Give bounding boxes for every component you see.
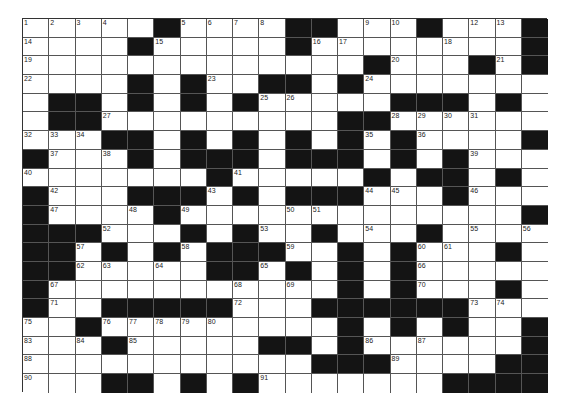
grid-cell[interactable]: 22 <box>23 75 49 94</box>
grid-cell[interactable] <box>286 299 312 318</box>
grid-cell[interactable]: 44 <box>364 187 390 206</box>
grid-cell[interactable] <box>496 38 522 57</box>
grid-cell[interactable] <box>364 318 390 337</box>
grid-cell[interactable]: 32 <box>23 131 49 150</box>
grid-cell[interactable] <box>312 56 338 75</box>
grid-cell[interactable] <box>76 355 102 374</box>
grid-cell[interactable] <box>496 318 522 337</box>
grid-cell[interactable]: 68 <box>233 281 259 300</box>
grid-cell[interactable] <box>259 112 285 131</box>
grid-cell[interactable] <box>49 38 75 57</box>
grid-cell[interactable]: 62 <box>76 262 102 281</box>
grid-cell[interactable] <box>496 206 522 225</box>
grid-cell[interactable] <box>128 243 154 262</box>
grid-cell[interactable] <box>469 75 495 94</box>
grid-cell[interactable] <box>207 281 233 300</box>
grid-cell[interactable] <box>181 337 207 356</box>
grid-cell[interactable] <box>391 225 417 244</box>
grid-cell[interactable]: 15 <box>154 38 180 57</box>
grid-cell[interactable]: 18 <box>443 38 469 57</box>
grid-cell[interactable] <box>312 262 338 281</box>
grid-cell[interactable] <box>312 131 338 150</box>
grid-cell[interactable]: 37 <box>49 150 75 169</box>
grid-cell[interactable] <box>391 374 417 393</box>
grid-cell[interactable] <box>102 75 128 94</box>
grid-cell[interactable] <box>49 374 75 393</box>
grid-cell[interactable] <box>469 206 495 225</box>
grid-cell[interactable] <box>233 355 259 374</box>
grid-cell[interactable]: 14 <box>23 38 49 57</box>
grid-cell[interactable] <box>364 374 390 393</box>
grid-cell[interactable] <box>338 206 364 225</box>
grid-cell[interactable] <box>338 94 364 113</box>
grid-cell[interactable] <box>207 337 233 356</box>
grid-cell[interactable]: 34 <box>76 131 102 150</box>
grid-cell[interactable] <box>469 262 495 281</box>
grid-cell[interactable] <box>207 94 233 113</box>
grid-cell[interactable]: 49 <box>181 206 207 225</box>
grid-cell[interactable] <box>364 38 390 57</box>
grid-cell[interactable] <box>496 150 522 169</box>
grid-cell[interactable]: 85 <box>128 337 154 356</box>
grid-cell[interactable] <box>417 150 443 169</box>
grid-cell[interactable] <box>154 56 180 75</box>
grid-cell[interactable] <box>76 374 102 393</box>
grid-cell[interactable] <box>102 206 128 225</box>
grid-cell[interactable] <box>181 112 207 131</box>
grid-cell[interactable]: 29 <box>417 112 443 131</box>
grid-cell[interactable] <box>207 112 233 131</box>
grid-cell[interactable]: 1 <box>23 19 49 38</box>
grid-cell[interactable] <box>154 355 180 374</box>
grid-cell[interactable]: 72 <box>233 299 259 318</box>
grid-cell[interactable] <box>443 206 469 225</box>
grid-cell[interactable]: 5 <box>181 19 207 38</box>
grid-cell[interactable] <box>391 337 417 356</box>
grid-cell[interactable] <box>154 112 180 131</box>
grid-cell[interactable] <box>443 225 469 244</box>
grid-cell[interactable] <box>102 38 128 57</box>
grid-cell[interactable] <box>154 374 180 393</box>
grid-cell[interactable]: 39 <box>469 150 495 169</box>
grid-cell[interactable] <box>49 337 75 356</box>
grid-cell[interactable] <box>128 225 154 244</box>
grid-cell[interactable] <box>364 262 390 281</box>
grid-cell[interactable] <box>312 75 338 94</box>
grid-cell[interactable] <box>522 112 548 131</box>
grid-cell[interactable] <box>128 56 154 75</box>
grid-cell[interactable]: 64 <box>154 262 180 281</box>
grid-cell[interactable] <box>312 94 338 113</box>
grid-cell[interactable]: 42 <box>49 187 75 206</box>
grid-cell[interactable] <box>496 75 522 94</box>
grid-cell[interactable] <box>128 169 154 188</box>
grid-cell[interactable]: 52 <box>102 225 128 244</box>
grid-cell[interactable] <box>443 75 469 94</box>
grid-cell[interactable]: 91 <box>259 374 285 393</box>
grid-cell[interactable] <box>76 187 102 206</box>
grid-cell[interactable]: 30 <box>443 112 469 131</box>
grid-cell[interactable] <box>49 355 75 374</box>
grid-cell[interactable]: 80 <box>207 318 233 337</box>
grid-cell[interactable] <box>417 75 443 94</box>
grid-cell[interactable] <box>469 169 495 188</box>
grid-cell[interactable] <box>49 318 75 337</box>
grid-cell[interactable]: 17 <box>338 38 364 57</box>
grid-cell[interactable]: 24 <box>364 75 390 94</box>
grid-cell[interactable] <box>154 131 180 150</box>
grid-cell[interactable]: 55 <box>469 225 495 244</box>
grid-cell[interactable] <box>49 169 75 188</box>
grid-cell[interactable] <box>207 355 233 374</box>
grid-cell[interactable]: 35 <box>364 131 390 150</box>
grid-cell[interactable]: 20 <box>391 56 417 75</box>
grid-cell[interactable] <box>286 56 312 75</box>
grid-cell[interactable] <box>76 169 102 188</box>
grid-cell[interactable]: 63 <box>102 262 128 281</box>
grid-cell[interactable]: 84 <box>76 337 102 356</box>
grid-cell[interactable]: 40 <box>23 169 49 188</box>
grid-cell[interactable] <box>259 318 285 337</box>
grid-cell[interactable] <box>417 374 443 393</box>
grid-cell[interactable]: 46 <box>469 187 495 206</box>
grid-cell[interactable] <box>76 299 102 318</box>
grid-cell[interactable] <box>259 131 285 150</box>
grid-cell[interactable] <box>259 281 285 300</box>
grid-cell[interactable] <box>443 262 469 281</box>
